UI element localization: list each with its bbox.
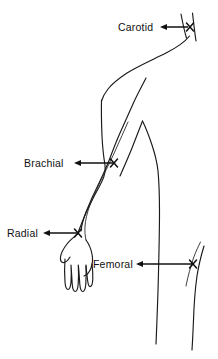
hand-fingers [65,259,87,292]
neck-back-line [193,13,197,41]
neck-front-line [181,14,187,38]
hand-little-finger [86,264,93,287]
leg-outline-group [186,242,204,350]
radial-label: Radial [7,227,38,239]
torso-front-line [143,121,160,344]
carotid-arrow-head [160,24,167,30]
hip-buttock-line [120,121,143,176]
anatomy-illustration: Carotid Brachial Radial [0,0,218,359]
brachial-label: Brachial [24,157,64,169]
hand-thumb-edge [60,234,77,263]
leg-front-line [192,246,204,350]
arm-outline-group [78,78,146,240]
radial-arrow-head [43,230,50,236]
femoral-label: Femoral [93,258,133,270]
femoral-annotation-group: Femoral [93,258,197,270]
torso-outline-group [120,121,160,344]
forearm-contour-line [85,122,128,240]
hand-palm-line [84,240,93,276]
femoral-arrow-head [136,261,143,267]
hand-outline-group [60,234,92,292]
brachial-arrow-head [74,160,81,166]
carotid-label: Carotid [118,21,153,33]
shoulder-back-curve [102,36,190,101]
arm-outer-edge [78,100,106,234]
shoulder-outline-group [102,36,190,101]
pulse-points-figure: Carotid Brachial Radial [0,0,218,359]
radial-annotation-group: Radial [7,227,82,239]
